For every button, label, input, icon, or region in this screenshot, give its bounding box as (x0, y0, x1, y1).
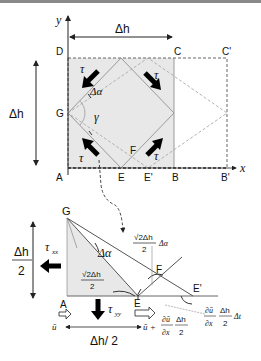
svg-text:∂ū: ∂ū (162, 315, 170, 324)
y-axis-label: y (55, 13, 62, 27)
svg-text:2: 2 (142, 245, 147, 254)
svg-text:2: 2 (223, 319, 228, 328)
arc-length-label: √2Δh 2 Δα (133, 233, 169, 254)
point-B: B (172, 172, 179, 183)
point-A: A (56, 172, 63, 183)
tau-top-right: τ (154, 68, 159, 82)
svg-text:√2Δh: √2Δh (134, 233, 153, 242)
x-axis-label: x (239, 161, 246, 175)
svg-text:Δt: Δt (233, 312, 242, 321)
point-G: G (56, 108, 64, 119)
point-D: D (56, 46, 63, 57)
stress-xx-arrow (40, 259, 61, 273)
stress-xx-symbol: τ (45, 240, 50, 254)
detail-point-G: G (62, 205, 71, 217)
svg-text:∂x: ∂x (162, 328, 170, 337)
detail-point-E: E (134, 298, 141, 309)
stress-yy-arrow (91, 299, 105, 320)
stress-yy-symbol: τ (108, 302, 113, 316)
point-E: E (118, 172, 125, 183)
detail-point-A: A (60, 299, 67, 310)
point-F: F (130, 145, 136, 156)
point-E-prime: E' (144, 172, 153, 183)
angle-gamma: γ (94, 110, 99, 124)
stress-xx-subscript: xx (51, 248, 59, 256)
detail-height-label: Δh 2 (12, 245, 32, 278)
height-dimension-label: Δh (9, 107, 24, 121)
velocity-left: ū (52, 322, 57, 332)
svg-text:2: 2 (18, 264, 25, 278)
point-C-prime: C' (222, 46, 231, 57)
base-dimension-label: Δh/ 2 (90, 334, 118, 348)
width-dimension-label: Δh (115, 22, 130, 36)
displacement-expression: ∂ū ∂x Δh 2 Δt (204, 306, 242, 328)
svg-text:ū +: ū + (143, 322, 156, 332)
tau-bottom-right: τ (154, 149, 159, 163)
detail-point-F: F (156, 264, 162, 275)
angle-delta-alpha: Δα (89, 85, 102, 97)
point-B-prime: B' (221, 172, 230, 183)
svg-text:√2Δh: √2Δh (82, 270, 101, 279)
svg-text:2: 2 (179, 328, 184, 337)
svg-text:∂ū: ∂ū (205, 306, 213, 315)
detail-point-E-prime: E' (193, 283, 202, 294)
point-C: C (174, 46, 181, 57)
stress-yy-subscript: yy (114, 310, 122, 318)
tau-bottom-left: τ (79, 151, 84, 165)
top-diagram: y x Δh Δh D C C' G A E E' B B' F γ Δα τ (9, 13, 246, 232)
svg-text:Δh: Δh (220, 306, 230, 315)
velocity-arrow-left (59, 309, 71, 319)
line-EF (138, 257, 182, 296)
shear-deformation-diagram: y x Δh Δh D C C' G A E E' B B' F γ Δα τ (0, 0, 261, 361)
svg-text:Δh: Δh (14, 245, 29, 259)
detail-delta-alpha: Δα (97, 246, 112, 260)
svg-text:∂x: ∂x (205, 319, 213, 328)
svg-text:Δh: Δh (176, 315, 186, 324)
bottom-diagram: G A E E' F Δα √2Δh 2 √2Δh 2 Δα Δh 2 (12, 205, 242, 348)
svg-text:2: 2 (90, 282, 95, 291)
detail-leader (99, 160, 123, 232)
svg-text:Δα: Δα (158, 239, 169, 248)
tau-top-left: τ (80, 62, 85, 76)
